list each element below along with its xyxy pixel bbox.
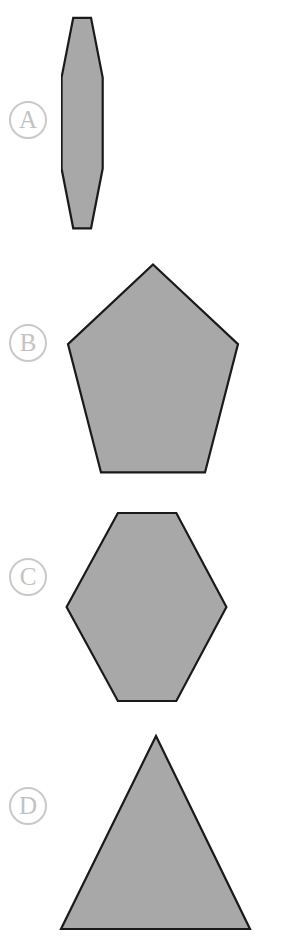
option-row-a[interactable]: A (0, 0, 301, 250)
shape-options-page: A B C D (0, 0, 301, 939)
option-label-c[interactable]: C (9, 558, 47, 596)
triangle-polygon (61, 736, 250, 929)
option-row-b[interactable]: B (0, 250, 301, 480)
hexagon-polygon (67, 513, 227, 701)
hexagon-shape (63, 509, 230, 705)
option-row-c[interactable]: C (0, 480, 301, 705)
option-label-a[interactable]: A (9, 101, 47, 139)
option-label-b[interactable]: B (9, 324, 47, 362)
pentagon-polygon (68, 265, 238, 473)
octagon-polygon (62, 18, 103, 228)
option-row-d[interactable]: D (0, 705, 301, 939)
option-label-d[interactable]: D (9, 787, 47, 825)
pentagon-shape (65, 262, 241, 475)
octagon-shape (61, 15, 215, 234)
triangle-shape (59, 733, 252, 932)
